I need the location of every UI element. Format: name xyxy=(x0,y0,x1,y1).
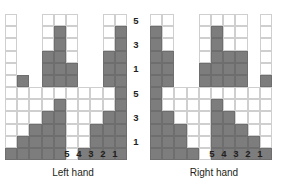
grid-cell xyxy=(5,87,17,99)
grid-cell xyxy=(115,99,127,111)
grid-cell xyxy=(78,124,90,136)
grid-cell xyxy=(78,111,90,123)
grid-cell xyxy=(223,87,235,99)
right-hand-grid-wrap xyxy=(150,14,272,160)
grid-cell xyxy=(187,87,199,99)
grid-cell xyxy=(248,26,260,38)
grid-cell xyxy=(90,111,102,123)
grid-cell xyxy=(162,136,174,148)
grid-cell xyxy=(115,124,127,136)
grid-cell xyxy=(17,63,29,75)
grid-cell xyxy=(29,63,41,75)
grid-cell xyxy=(29,75,41,87)
grid-cell xyxy=(199,111,211,123)
grid-cell xyxy=(29,87,41,99)
ytick-lower-5: 5 xyxy=(131,88,141,99)
grid-cell xyxy=(5,14,17,26)
grid-cell xyxy=(199,14,211,26)
grid-cell xyxy=(260,51,272,63)
grid-cell xyxy=(54,124,66,136)
grid-cell xyxy=(17,111,29,123)
grid-cell xyxy=(187,75,199,87)
grid-cell xyxy=(248,111,260,123)
grid-cell xyxy=(17,38,29,50)
grid-cell xyxy=(260,38,272,50)
grid-cell xyxy=(54,38,66,50)
grid-cell xyxy=(78,63,90,75)
grid-cell xyxy=(66,51,78,63)
grid-cell xyxy=(5,75,17,87)
grid-cell xyxy=(235,26,247,38)
grid-cell xyxy=(90,99,102,111)
grid-cell xyxy=(42,26,54,38)
grid-cell xyxy=(29,99,41,111)
grid-cell xyxy=(103,38,115,50)
grid-cell xyxy=(17,136,29,148)
grid-cell xyxy=(248,14,260,26)
grid-cell xyxy=(5,148,17,160)
grid-cell xyxy=(174,38,186,50)
grid-cell xyxy=(90,124,102,136)
grid-cell xyxy=(187,111,199,123)
grid-cell xyxy=(211,99,223,111)
ytick-upper-3: 3 xyxy=(131,39,141,50)
grid-cell xyxy=(223,26,235,38)
grid-cell xyxy=(174,136,186,148)
grid-cell xyxy=(248,136,260,148)
grid-cell xyxy=(78,26,90,38)
grid-cell xyxy=(42,111,54,123)
grid-cell xyxy=(199,63,211,75)
grid-cell xyxy=(115,14,127,26)
grid-cell xyxy=(162,26,174,38)
grid-cell xyxy=(223,75,235,87)
grid-cell xyxy=(260,75,272,87)
grid-cell xyxy=(90,87,102,99)
grid-cell xyxy=(211,124,223,136)
grid-cell xyxy=(115,111,127,123)
grid-cell xyxy=(162,124,174,136)
grid-cell xyxy=(223,111,235,123)
grid-cell xyxy=(5,63,17,75)
left-xtick-4: 4 xyxy=(74,148,84,159)
grid-cell xyxy=(260,63,272,75)
grid-cell xyxy=(235,51,247,63)
grid-cell xyxy=(78,99,90,111)
grid-cell xyxy=(235,14,247,26)
grid-cell xyxy=(211,136,223,148)
grid-cell xyxy=(29,136,41,148)
grid-cell xyxy=(66,111,78,123)
grid-cell xyxy=(162,14,174,26)
grid-cell xyxy=(103,14,115,26)
right-xtick-3: 3 xyxy=(231,148,241,159)
grid-cell xyxy=(29,26,41,38)
grid-cell xyxy=(235,136,247,148)
grid-cell xyxy=(187,99,199,111)
grid-cell xyxy=(78,136,90,148)
grid-cell xyxy=(187,124,199,136)
ytick-lower-1: 1 xyxy=(131,136,141,147)
grid-cell xyxy=(248,63,260,75)
grid-cell xyxy=(115,51,127,63)
grid-cell xyxy=(54,136,66,148)
grid-cell xyxy=(78,75,90,87)
right-xtick-1: 1 xyxy=(255,148,265,159)
grid-cell xyxy=(42,51,54,63)
grid-cell xyxy=(66,99,78,111)
grid-cell xyxy=(90,63,102,75)
grid-cell xyxy=(54,99,66,111)
grid-cell xyxy=(115,38,127,50)
grid-cell xyxy=(211,38,223,50)
grid-cell xyxy=(78,14,90,26)
grid-cell xyxy=(199,136,211,148)
grid-cell xyxy=(42,75,54,87)
grid-cell xyxy=(103,124,115,136)
grid-cell xyxy=(90,38,102,50)
grid-cell xyxy=(223,124,235,136)
grid-cell xyxy=(260,124,272,136)
grid-cell xyxy=(187,136,199,148)
grid-cell xyxy=(199,75,211,87)
grid-cell xyxy=(235,63,247,75)
grid-cell xyxy=(235,75,247,87)
grid-cell xyxy=(248,99,260,111)
grid-cell xyxy=(150,136,162,148)
